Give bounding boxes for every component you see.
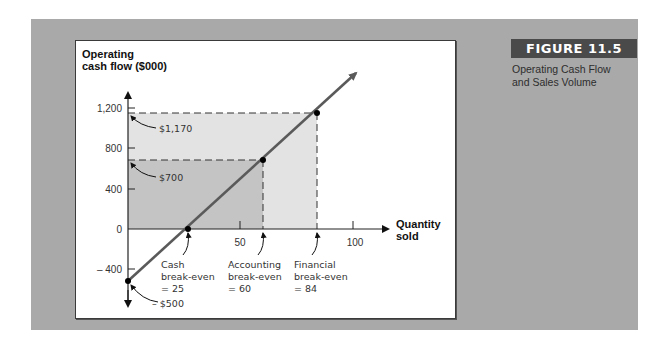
y-tick-label-neg400: – 400: [97, 264, 122, 275]
pointer-financial: [312, 233, 317, 255]
point-accounting-breakeven: [260, 157, 266, 163]
accounting-label-line-3: = 60: [228, 283, 251, 294]
y-tick-label-400: 400: [105, 184, 122, 195]
financial-label-line-2: break-even: [294, 271, 348, 282]
point-cash-breakeven: [185, 226, 191, 232]
point-financial-breakeven: [314, 110, 320, 116]
accounting-label-line-1: Accounting: [228, 259, 281, 270]
pointer-cash: [183, 233, 188, 255]
y-tick-label-0: 0: [116, 224, 122, 235]
y-tick-label-1200: 1,200: [97, 103, 122, 114]
accounting-label-line-2: break-even: [228, 271, 282, 282]
x-tick-label-100: 100: [347, 237, 364, 248]
annotation-neg500: – $500: [152, 298, 184, 309]
y-tick-label-800: 800: [105, 143, 122, 154]
annotation-700: $700: [159, 172, 183, 183]
financial-label-line-1: Financial: [294, 259, 336, 270]
financial-label-line-3: = 84: [294, 283, 317, 294]
annotation-1170: $1,170: [159, 123, 192, 134]
plot-area: 1,200 800 400 0 – 400 50 100 $1,170 $700…: [0, 0, 669, 345]
pointer-accounting: [258, 233, 263, 255]
cash-label-line-1: Cash: [161, 259, 184, 270]
x-tick-label-50: 50: [234, 237, 246, 248]
cash-label-line-2: break-even: [161, 271, 215, 282]
point-neg500: [125, 278, 131, 284]
cash-label-line-3: = 25: [161, 283, 184, 294]
